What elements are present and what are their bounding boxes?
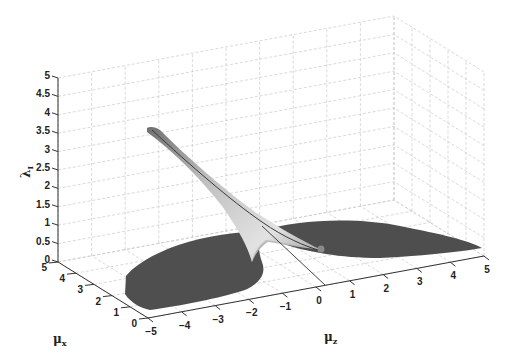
mu-z-tick-label: 4	[451, 270, 457, 281]
z-tick-label: 3.5	[36, 125, 50, 136]
mu-x-tick	[139, 318, 148, 319]
mu-z-tick	[215, 306, 220, 310]
background-grid	[58, 16, 484, 318]
grid-line	[394, 16, 484, 72]
mu-z-tick	[249, 299, 254, 303]
z-tick	[52, 94, 58, 96]
grid-line	[394, 53, 484, 109]
z-axis-label: λI	[19, 166, 35, 178]
z-tick	[52, 223, 58, 225]
mu-z-tick	[350, 281, 355, 285]
mu-z-axis-label: μz	[324, 330, 338, 346]
grid-line	[394, 126, 484, 182]
z-tick	[52, 150, 58, 152]
mu-z-tick	[316, 287, 321, 291]
z-tick-label: 4	[44, 107, 50, 118]
surface	[125, 127, 482, 310]
surface-plot: 00.511.522.533.544.55012345−5−4−3−2−1012…	[0, 0, 520, 364]
mu-z-tick-label: 5	[484, 264, 490, 275]
mu-z-tick-label: 0	[316, 295, 322, 306]
z-tick	[52, 186, 58, 188]
mu-x-tick-label: 5	[41, 262, 47, 273]
grid-line	[58, 34, 394, 96]
mu-z-tick-label: −4	[179, 320, 191, 331]
mu-x-tick-label: 2	[95, 296, 101, 307]
mu-z-tick	[182, 312, 187, 316]
z-tick-label: 3	[44, 144, 50, 155]
z-tick-label: 4.5	[36, 88, 50, 99]
grid-line	[394, 163, 484, 219]
grid-line	[394, 71, 484, 127]
grid-line	[394, 90, 484, 146]
grid-line	[394, 145, 484, 201]
mu-x-axis-label: μx	[53, 332, 67, 348]
mu-z-tick-label: −2	[246, 307, 258, 318]
marker-point	[318, 246, 325, 253]
mu-x-tick	[103, 296, 112, 297]
left-wing-surface	[125, 231, 263, 310]
mu-z-tick-label: −3	[212, 314, 224, 325]
mu-z-tick-label: 1	[350, 289, 356, 300]
z-tick-label: 2.5	[36, 162, 50, 173]
mu-x-tick-label: 1	[113, 307, 119, 318]
mu-z-tick	[383, 275, 388, 279]
mu-z-tick	[417, 268, 422, 272]
z-tick	[52, 242, 58, 244]
mu-x-tick	[67, 273, 76, 274]
grid-line	[394, 108, 484, 164]
z-tick-label: 2	[44, 180, 50, 191]
mu-x-tick-label: 4	[59, 273, 65, 284]
mu-x-tick	[49, 262, 58, 263]
mu-x-tick-label: 0	[131, 318, 137, 329]
mu-z-tick-label: −1	[280, 301, 292, 312]
z-tick-label: 1.5	[36, 199, 50, 210]
mu-z-tick	[450, 262, 455, 266]
z-tick	[52, 76, 58, 78]
mu-x-tick	[85, 284, 94, 285]
z-tick-label: 1	[44, 217, 50, 228]
z-tick-label: 0.5	[36, 236, 50, 247]
mu-z-tick	[148, 318, 153, 322]
mu-z-tick-label: 3	[417, 276, 423, 287]
mu-x-tick-label: 3	[77, 284, 83, 295]
z-tick	[52, 113, 58, 115]
mu-z-tick	[484, 256, 489, 260]
z-tick-label: 5	[44, 70, 50, 81]
mu-z-tick	[282, 293, 287, 297]
grid-line	[394, 34, 484, 90]
mu-z-tick-label: 2	[383, 283, 389, 294]
z-tick	[52, 131, 58, 133]
mu-x-tick	[121, 307, 130, 308]
z-tick	[52, 205, 58, 207]
z-tick	[52, 168, 58, 170]
mu-z-tick-label: −5	[145, 326, 157, 337]
